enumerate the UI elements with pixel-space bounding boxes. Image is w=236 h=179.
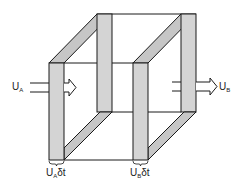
inlet-velocity-label: UA	[12, 82, 23, 93]
outlet-thickness-label: UBδt	[130, 168, 150, 179]
control-volume-diagram	[0, 0, 236, 179]
inlet-thickness-label: UAδt	[46, 168, 66, 179]
outlet-velocity-subscript: B	[226, 87, 230, 93]
inlet-slab-back	[97, 14, 112, 112]
inlet-thickness-delta-t: δt	[57, 167, 65, 178]
outlet-slab-back	[181, 14, 196, 112]
outlet-slab-bottom	[148, 112, 196, 160]
outlet-slab-front	[133, 63, 148, 160]
inlet-slab	[49, 14, 112, 160]
inlet-slab-front	[49, 63, 64, 160]
outlet-slab	[133, 14, 196, 160]
inlet-slab-bottom	[64, 112, 112, 160]
inlet-velocity-subscript: A	[19, 87, 23, 93]
inlet-thickness-brace	[49, 161, 64, 166]
outlet-velocity-label: UB	[219, 82, 230, 93]
outlet-thickness-delta-t: δt	[141, 167, 149, 178]
outlet-thickness-brace	[133, 161, 148, 166]
